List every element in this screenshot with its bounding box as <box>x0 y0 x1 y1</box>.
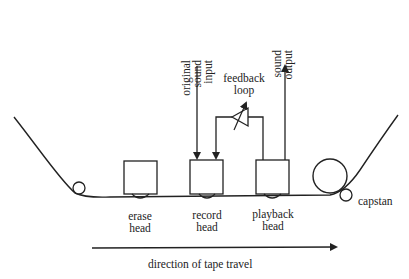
label-line: output <box>283 50 294 100</box>
record-head-icon <box>190 160 223 198</box>
feedback-return-line <box>216 117 232 158</box>
label-line: feedback <box>214 72 274 84</box>
tape-loop-diagram: original sound input sound output feedba… <box>0 0 409 279</box>
feedback-loop-line <box>248 117 263 160</box>
direction-label: direction of tape travel <box>148 258 252 270</box>
capstan-label: capstan <box>358 195 392 207</box>
label-line: erase <box>115 210 165 222</box>
guide-roller-icon <box>73 182 85 194</box>
erase-head-label: erase head <box>115 210 165 234</box>
label-line: head <box>115 222 165 234</box>
playback-head-icon <box>256 160 289 198</box>
original-sound-input-label: original sound input <box>181 60 214 122</box>
diagram-graphics <box>0 0 409 279</box>
pinch-roller-icon <box>340 189 352 201</box>
feedback-loop-label: feedback loop <box>214 72 274 96</box>
direction-arrow <box>92 247 336 248</box>
label-line: head <box>182 221 232 233</box>
label-line: playback <box>245 208 301 220</box>
label-line: record <box>182 209 232 221</box>
record-head-label: record head <box>182 209 232 233</box>
label-line: loop <box>214 84 274 96</box>
capstan-wheel-icon <box>313 159 347 193</box>
erase-head-icon <box>124 161 157 198</box>
playback-head-label: playback head <box>245 208 301 232</box>
sound-output-label: sound output <box>272 50 294 100</box>
label-line: input <box>203 60 214 122</box>
label-line: head <box>245 220 301 232</box>
